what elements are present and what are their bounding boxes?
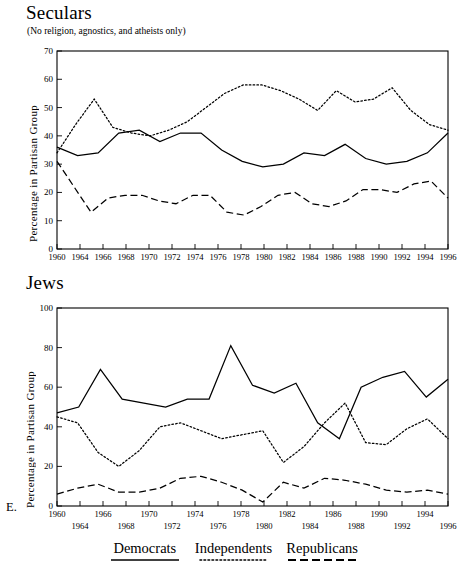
- x-tick-label: 1970: [140, 252, 157, 262]
- x-tick-label: 1996: [439, 521, 457, 531]
- y-tick-label: 20: [44, 461, 54, 471]
- legend-item-republicans: Republicans: [286, 541, 358, 564]
- chart-seculars-plot: 0102030405060701960196419661968197019721…: [0, 0, 467, 270]
- x-tick-label: 1988: [347, 252, 364, 262]
- x-tick-label: 1994: [416, 509, 434, 519]
- x-tick-label: 1976: [209, 252, 227, 262]
- panel-letter: E.: [6, 500, 17, 515]
- y-tick-label: 40: [44, 422, 54, 432]
- figure-legend: Democrats Independents Republicans: [0, 541, 467, 564]
- x-tick-label: 1968: [117, 521, 134, 531]
- chart-jews-title: Jews: [26, 272, 64, 294]
- x-tick-label: 1966: [94, 252, 112, 262]
- x-tick-label: 1988: [347, 521, 364, 531]
- x-tick-label: 1974: [186, 509, 204, 519]
- x-tick-label: 1960: [48, 252, 65, 262]
- x-tick-label: 1990: [370, 252, 387, 262]
- x-tick-label: 1990: [370, 509, 387, 519]
- x-tick-label: 1984: [301, 521, 319, 531]
- y-tick-label: 30: [44, 159, 54, 169]
- y-tick-label: 80: [44, 343, 54, 353]
- chart-seculars-ylabel: Percentage in Partisan Group: [27, 62, 39, 242]
- chart-seculars: Seculars (No religion, agnostics, and at…: [0, 0, 467, 270]
- plot-frame: [57, 308, 448, 506]
- x-tick-label: 1964: [71, 252, 89, 262]
- x-tick-label: 1984: [301, 252, 319, 262]
- series-democrats: [57, 130, 448, 167]
- series-republicans: [57, 476, 448, 502]
- x-tick-label: 1972: [163, 521, 180, 531]
- x-tick-label: 1992: [393, 252, 410, 262]
- y-tick-label: 60: [44, 74, 54, 84]
- chart-jews: Jews Percentage in Partisan Group E. 020…: [0, 272, 467, 534]
- legend-key-democrats-solid: [109, 557, 181, 564]
- x-tick-label: 1980: [255, 252, 272, 262]
- legend-key-republicans-dashed: [286, 557, 358, 564]
- chart-seculars-title: Seculars: [26, 2, 92, 24]
- series-independents: [57, 85, 448, 153]
- plot-frame: [57, 51, 448, 249]
- x-tick-label: 1996: [439, 252, 457, 262]
- x-tick-label: 1986: [324, 509, 342, 519]
- x-tick-label: 1992: [393, 521, 410, 531]
- series-independents: [57, 403, 448, 466]
- y-tick-label: 20: [44, 187, 54, 197]
- x-tick-label: 1994: [416, 252, 434, 262]
- x-tick-label: 1978: [232, 509, 249, 519]
- x-tick-label: 1982: [278, 509, 295, 519]
- x-tick-label: 1986: [324, 252, 342, 262]
- legend-label-republicans: Republicans: [286, 541, 358, 556]
- legend-label-democrats: Democrats: [113, 541, 176, 556]
- series-republicans: [57, 161, 448, 215]
- x-tick-label: 1968: [117, 252, 134, 262]
- y-tick-label: 40: [44, 131, 54, 141]
- x-tick-label: 1972: [163, 252, 180, 262]
- legend-key-independents-dotted: [198, 557, 270, 564]
- x-tick-label: 1982: [278, 252, 295, 262]
- x-tick-label: 1964: [71, 521, 89, 531]
- chart-jews-plot: 0204060801001960196619701974197819821986…: [0, 272, 467, 534]
- y-tick-label: 70: [44, 46, 54, 56]
- y-tick-label: 10: [44, 216, 54, 226]
- chart-seculars-subtitle: (No religion, agnostics, and atheists on…: [27, 26, 186, 36]
- series-democrats: [57, 346, 448, 439]
- legend-item-democrats: Democrats: [109, 541, 181, 564]
- chart-jews-ylabel: Percentage in Partisan Group: [24, 318, 36, 508]
- x-tick-label: 1970: [140, 509, 157, 519]
- y-tick-label: 50: [44, 103, 54, 113]
- y-tick-label: 60: [44, 382, 54, 392]
- legend-label-independents: Independents: [195, 541, 272, 556]
- figure-page: Seculars (No religion, agnostics, and at…: [0, 0, 467, 578]
- x-tick-label: 1976: [209, 521, 227, 531]
- x-tick-label: 1966: [94, 509, 112, 519]
- y-tick-label: 100: [40, 303, 54, 313]
- x-tick-label: 1960: [48, 509, 65, 519]
- legend-item-independents: Independents: [195, 541, 272, 564]
- x-tick-label: 1974: [186, 252, 204, 262]
- x-tick-label: 1978: [232, 252, 249, 262]
- x-tick-label: 1980: [255, 521, 272, 531]
